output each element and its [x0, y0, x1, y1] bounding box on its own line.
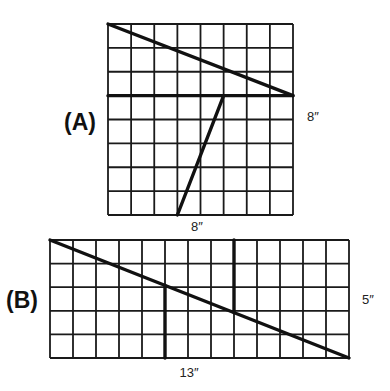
figure-b-height-label: 5″ — [362, 292, 374, 307]
figure-a-width-label: 8″ — [191, 219, 203, 234]
figure-a-label: (A) — [64, 109, 96, 135]
dissection-paradox-diagram: (A) 8″ 8″ (B) 13″ 5″ — [0, 0, 390, 391]
figure-b-label: (B) — [6, 287, 38, 313]
cut-long-diagonal — [50, 240, 349, 358]
figure-a-height-label: 8″ — [307, 109, 319, 124]
figure-b-cut-lines — [50, 240, 349, 358]
figure-b-rectangle-13x5: (B) 13″ 5″ — [6, 240, 374, 380]
figure-a-grid — [108, 24, 293, 215]
figure-b-width-label: 13″ — [179, 365, 198, 380]
figure-a-square-8x8: (A) 8″ 8″ — [64, 24, 319, 234]
